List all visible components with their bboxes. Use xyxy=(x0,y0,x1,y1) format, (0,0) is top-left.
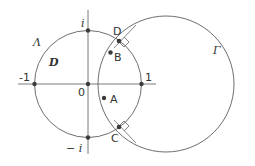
label-one: 1 xyxy=(145,71,152,84)
label-point-c: C xyxy=(111,132,119,145)
label-lambda: Λ xyxy=(32,36,41,49)
label-zero: 0 xyxy=(78,86,85,99)
point-neg-one xyxy=(32,82,36,86)
label-neg-one: -1 xyxy=(19,71,30,84)
label-region-d: D xyxy=(48,56,59,69)
point-a xyxy=(102,96,106,100)
point-c xyxy=(117,125,122,130)
point-i xyxy=(86,28,90,32)
point-d xyxy=(117,39,122,44)
label-i: i xyxy=(81,17,85,30)
point-b xyxy=(108,50,112,54)
label-gamma: Γ xyxy=(212,44,221,57)
diagram-canvas: Λ Γ D -1 1 0 i − i D B A C xyxy=(0,0,255,166)
point-origin xyxy=(86,82,90,86)
point-one xyxy=(139,82,143,86)
label-point-a: A xyxy=(110,93,118,106)
point-neg-i xyxy=(86,135,90,139)
label-point-b: B xyxy=(114,51,122,64)
label-point-d: D xyxy=(113,25,121,38)
label-neg-i: − i xyxy=(66,142,82,155)
